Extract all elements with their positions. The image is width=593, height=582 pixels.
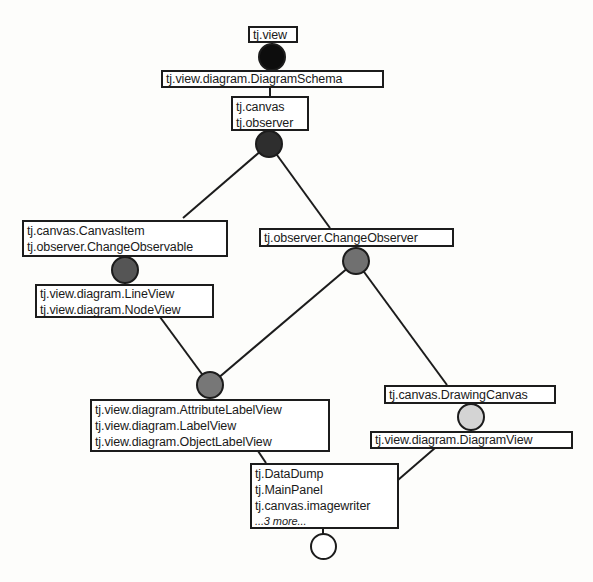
node-labelviews-medium[interactable] bbox=[196, 371, 224, 399]
label-diagram-schema: tj.view.diagram.DiagramSchema bbox=[161, 70, 384, 88]
node-root-dark[interactable] bbox=[255, 130, 283, 158]
label-line: tj.DataDump bbox=[255, 466, 394, 482]
label-line: tj.view.diagram.NodeView bbox=[40, 302, 209, 318]
edge-root-changeobserver bbox=[269, 144, 330, 228]
label-line: tj.view.diagram.LabelView bbox=[95, 418, 325, 434]
label-tj-view: tj.view bbox=[248, 26, 298, 43]
label-line: tj.observer.ChangeObservable bbox=[27, 239, 223, 255]
label-canvas-item: tj.canvas.CanvasItem tj.observer.ChangeO… bbox=[22, 220, 228, 257]
node-canvasitem-medium[interactable] bbox=[111, 256, 139, 284]
label-line: tj.observer bbox=[236, 115, 304, 131]
node-top-black[interactable] bbox=[258, 43, 286, 71]
label-line: tj.MainPanel bbox=[255, 482, 394, 498]
node-drawingcanvas-light[interactable] bbox=[457, 403, 485, 431]
label-line-node-view: tj.view.diagram.LineView tj.view.diagram… bbox=[35, 284, 214, 318]
edge-labelviews-bottom bbox=[258, 451, 266, 463]
label-line: tj.view.diagram.ObjectLabelView bbox=[95, 434, 325, 450]
label-bottom-classes: tj.DataDump tj.MainPanel tj.canvas.image… bbox=[250, 463, 399, 529]
label-label-views: tj.view.diagram.AttributeLabelView tj.vi… bbox=[90, 399, 330, 452]
label-line: tj.observer.ChangeObserver bbox=[264, 230, 449, 246]
label-change-observer: tj.observer.ChangeObserver bbox=[259, 228, 454, 247]
edge-diagramview-bottom bbox=[398, 448, 435, 480]
label-line: tj.canvas.imagewriter bbox=[255, 498, 394, 514]
label-line: tj.view bbox=[253, 28, 293, 42]
label-line: tj.canvas bbox=[236, 99, 304, 115]
label-line: tj.view.diagram.LineView bbox=[40, 286, 209, 302]
label-line: tj.view.diagram.DiagramSchema bbox=[166, 72, 379, 87]
edge-changeobserver-drawingcanvas bbox=[356, 261, 447, 385]
edge-changeobserver-labelviews bbox=[210, 261, 356, 385]
label-diagram-view: tj.view.diagram.DiagramView bbox=[370, 431, 573, 449]
label-line: tj.canvas.CanvasItem bbox=[27, 223, 223, 239]
label-line: tj.canvas.DrawingCanvas bbox=[389, 387, 551, 403]
label-drawing-canvas: tj.canvas.DrawingCanvas bbox=[384, 385, 556, 404]
label-line: tj.view.diagram.AttributeLabelView bbox=[95, 402, 325, 418]
edge-root-canvasitem bbox=[183, 144, 269, 218]
node-bottom-white[interactable] bbox=[310, 533, 337, 560]
node-changeobserver-medium[interactable] bbox=[342, 247, 370, 275]
label-canvas-observer: tj.canvas tj.observer bbox=[231, 96, 309, 131]
more-link[interactable]: ...3 more... bbox=[255, 514, 394, 528]
label-line: tj.view.diagram.DiagramView bbox=[375, 433, 568, 448]
